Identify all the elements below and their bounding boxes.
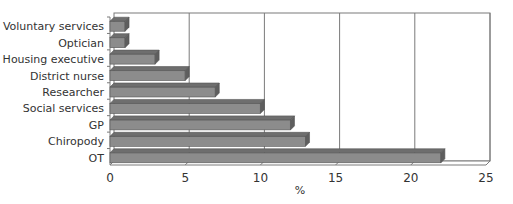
category-labels: Voluntary servicesOpticianHousing execut… <box>3 20 105 165</box>
category-label: GP <box>89 119 105 132</box>
x-tick-label: 20 <box>403 171 418 185</box>
x-tick-label: 5 <box>181 171 189 185</box>
category-label: Housing executive <box>3 53 105 66</box>
category-label: District nurse <box>30 70 104 83</box>
bar <box>107 149 445 163</box>
bar <box>107 50 159 64</box>
bar <box>107 66 189 80</box>
x-tick-labels: 0510152025 <box>106 171 493 185</box>
category-label: OT <box>89 152 105 165</box>
x-tick-label: 25 <box>478 171 493 185</box>
x-tick-label: 10 <box>253 171 268 185</box>
x-tick-label: 15 <box>328 171 343 185</box>
bar-chart: Voluntary servicesOpticianHousing execut… <box>0 0 513 204</box>
category-label: Chiropody <box>48 135 104 148</box>
bar <box>107 83 219 97</box>
category-label: Researcher <box>42 86 104 99</box>
x-tick-label: 0 <box>106 171 114 185</box>
category-label: Optician <box>58 37 104 50</box>
category-label: Social services <box>23 102 105 115</box>
category-label: Voluntary services <box>3 20 104 33</box>
x-axis-title: % <box>295 184 305 197</box>
bar <box>107 132 310 146</box>
bar <box>107 99 264 113</box>
bar <box>107 116 294 130</box>
